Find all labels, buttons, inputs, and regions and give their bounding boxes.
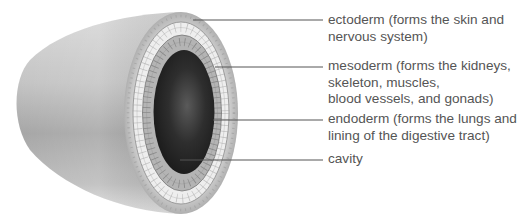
ectoderm-label-line-1: ectoderm (forms the skin and	[328, 12, 504, 29]
mesoderm-label: mesoderm (forms the kidneys, skeleton, m…	[328, 58, 511, 108]
endoderm-label-line-2: lining of the digestive tract)	[328, 128, 517, 145]
ectoderm-label-line-2: nervous system)	[328, 29, 504, 46]
endoderm-label: endoderm (forms the lungs and lining of …	[328, 111, 517, 144]
cavity-label: cavity	[328, 151, 363, 168]
cavity	[154, 50, 215, 174]
mesoderm-label-line-2: skeleton, muscles,	[328, 75, 511, 92]
ectoderm-label: ectoderm (forms the skin and nervous sys…	[328, 12, 504, 45]
mesoderm-label-line-1: mesoderm (forms the kidneys,	[328, 58, 511, 75]
endoderm-label-line-1: endoderm (forms the lungs and	[328, 111, 517, 128]
cavity-label-line-1: cavity	[328, 151, 363, 168]
mesoderm-label-line-3: blood vessels, and gonads)	[328, 91, 511, 108]
